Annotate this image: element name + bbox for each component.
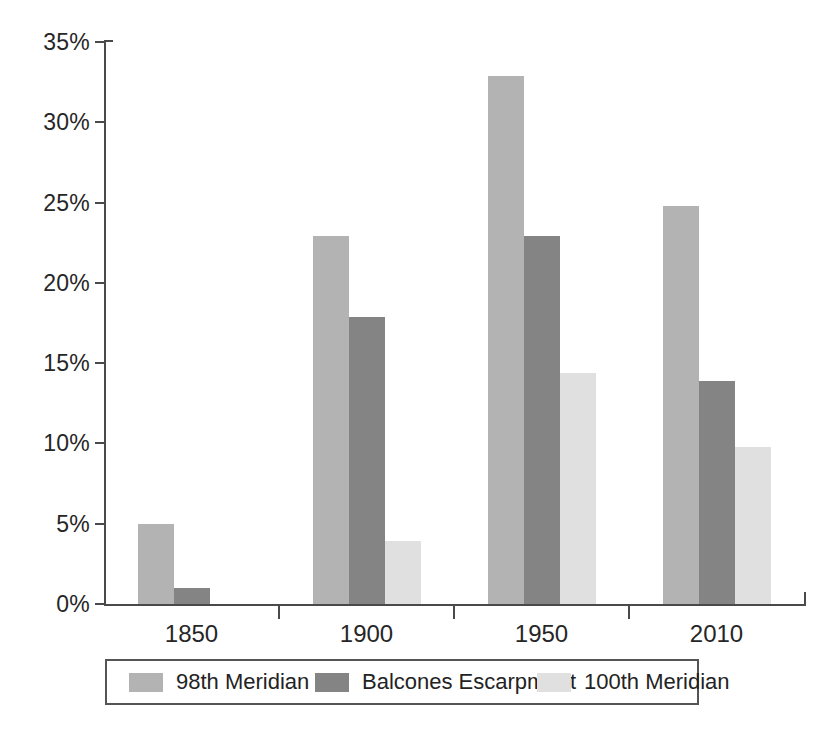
x-axis-tick-label: 1900	[340, 620, 393, 648]
y-axis-tick-label: 5%	[6, 510, 90, 537]
y-axis-tick	[95, 121, 104, 123]
bar-chart-figure: 0%5%10%15%20%25%30%35% 1850190019502010 …	[0, 0, 829, 744]
legend-swatch-icon	[129, 673, 163, 692]
bar	[524, 236, 560, 604]
x-axis-tick-label: 1850	[165, 620, 218, 648]
x-axis-tick	[278, 606, 280, 619]
legend-label: 98th Meridian	[176, 669, 309, 695]
bar	[174, 588, 210, 604]
bar	[349, 317, 385, 604]
y-axis-tick	[95, 282, 104, 284]
bar	[735, 447, 771, 604]
bar	[663, 206, 699, 604]
y-axis-tick-label: 15%	[6, 350, 90, 377]
y-axis-tick	[95, 523, 104, 525]
y-axis-tick	[95, 202, 104, 204]
x-axis-tick-label: 2010	[690, 620, 743, 648]
y-axis-tick-label: 0%	[6, 591, 90, 618]
legend-swatch-icon	[315, 673, 349, 692]
y-axis-tick-label: 10%	[6, 430, 90, 457]
y-axis-tick	[95, 362, 104, 364]
y-axis-tick-label: 20%	[6, 269, 90, 296]
y-axis-tick	[95, 442, 104, 444]
plot-area	[104, 42, 804, 604]
legend-entry: 100th Meridian	[537, 669, 730, 695]
x-axis-tick-label: 1950	[515, 620, 568, 648]
y-axis-tick	[95, 41, 104, 43]
bar	[385, 541, 421, 604]
bar	[560, 373, 596, 604]
bar	[138, 524, 174, 604]
y-axis-tick-label: 25%	[6, 189, 90, 216]
legend-entry: 98th Meridian	[129, 669, 309, 695]
x-axis-tick	[453, 606, 455, 619]
legend-swatch-icon	[537, 673, 571, 692]
legend-label: 100th Meridian	[584, 669, 730, 695]
y-axis-tick	[95, 603, 104, 605]
bar	[699, 381, 735, 604]
x-axis-tick	[628, 606, 630, 619]
bar	[313, 236, 349, 604]
y-axis-tick-label: 30%	[6, 109, 90, 136]
x-axis-right-cap	[804, 592, 806, 606]
chart-legend: 98th MeridianBalcones Escarpment100th Me…	[105, 659, 699, 705]
bar	[488, 76, 524, 604]
x-axis-line	[104, 604, 806, 606]
y-axis-tick-label: 35%	[6, 29, 90, 56]
